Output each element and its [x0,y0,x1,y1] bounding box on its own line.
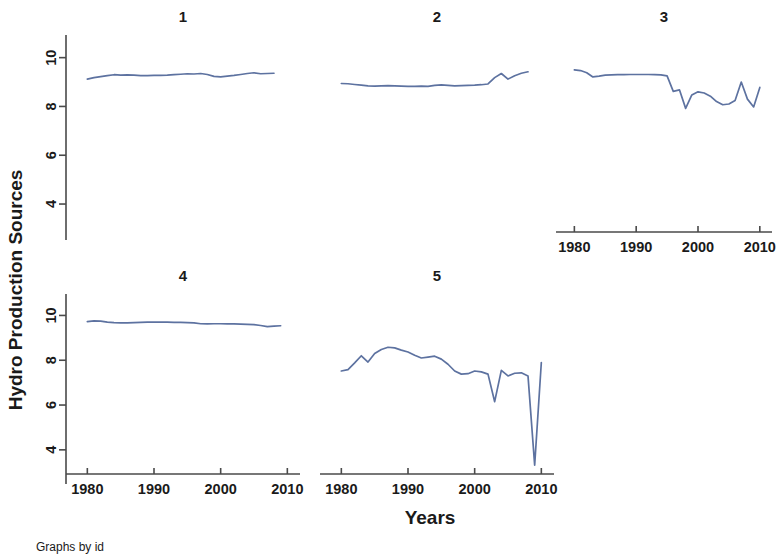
x-tick-label-2000: 2000 [682,239,714,255]
panel-title-4: 4 [179,267,188,284]
panel-title-3: 3 [660,8,668,25]
x-tick-label-1990: 1990 [138,481,170,497]
x-tick-label-2000: 2000 [459,481,491,497]
x-tick-label-2010: 2010 [525,481,557,497]
y-tick-label-6: 6 [43,401,59,409]
x-axis-title: Years [405,507,456,528]
y-tick-label-8: 8 [43,356,59,364]
y-tick-label-8: 8 [43,102,59,110]
chart-background [0,0,779,560]
x-tick-label-1990: 1990 [620,239,652,255]
y-tick-label-4: 4 [43,200,59,208]
x-tick-label-1980: 1980 [325,481,357,497]
x-tick-label-1980: 1980 [71,481,103,497]
hydro-production-panel-chart: Hydro Production Sources Years Graphs by… [0,0,779,560]
x-tick-label-2000: 2000 [205,481,237,497]
x-tick-label-2010: 2010 [744,239,776,255]
x-tick-label-2010: 2010 [271,481,303,497]
y-tick-label-4: 4 [43,446,59,454]
panel-title-5: 5 [433,267,441,284]
y-tick-label-6: 6 [43,151,59,159]
x-tick-label-1980: 1980 [558,239,590,255]
panel-title-2: 2 [433,8,441,25]
y-tick-label-10: 10 [43,50,59,66]
x-tick-label-1990: 1990 [392,481,424,497]
y-axis-title: Hydro Production Sources [5,170,26,411]
y-tick-label-10: 10 [43,307,59,323]
graphs-by-note: Graphs by id [36,540,104,554]
panel-title-1: 1 [179,8,187,25]
